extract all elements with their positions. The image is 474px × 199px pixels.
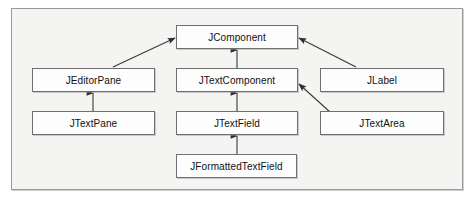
class-node-label: JTextField — [214, 118, 260, 129]
class-diagram: JComponent JEditorPane JTextComponent JL… — [0, 0, 474, 199]
class-node-jtextarea[interactable]: JTextArea — [320, 111, 444, 135]
class-node-jtextcomponent[interactable]: JTextComponent — [176, 68, 298, 92]
class-node-jcomponent[interactable]: JComponent — [176, 25, 298, 49]
class-node-jeditorpane[interactable]: JEditorPane — [32, 68, 155, 92]
class-node-label: JTextComponent — [199, 75, 275, 86]
class-node-label: JTextArea — [359, 118, 404, 129]
class-node-jformattedtextfield[interactable]: JFormattedTextField — [176, 154, 297, 178]
class-node-label: JTextPane — [70, 118, 118, 129]
class-node-label: JComponent — [208, 32, 266, 43]
class-node-label: JEditorPane — [66, 75, 122, 86]
class-node-jlabel[interactable]: JLabel — [320, 68, 444, 92]
class-node-label: JFormattedTextField — [190, 161, 283, 172]
class-node-jtextpane[interactable]: JTextPane — [32, 111, 155, 135]
class-node-jtextfield[interactable]: JTextField — [176, 111, 298, 135]
class-node-label: JLabel — [367, 75, 397, 86]
